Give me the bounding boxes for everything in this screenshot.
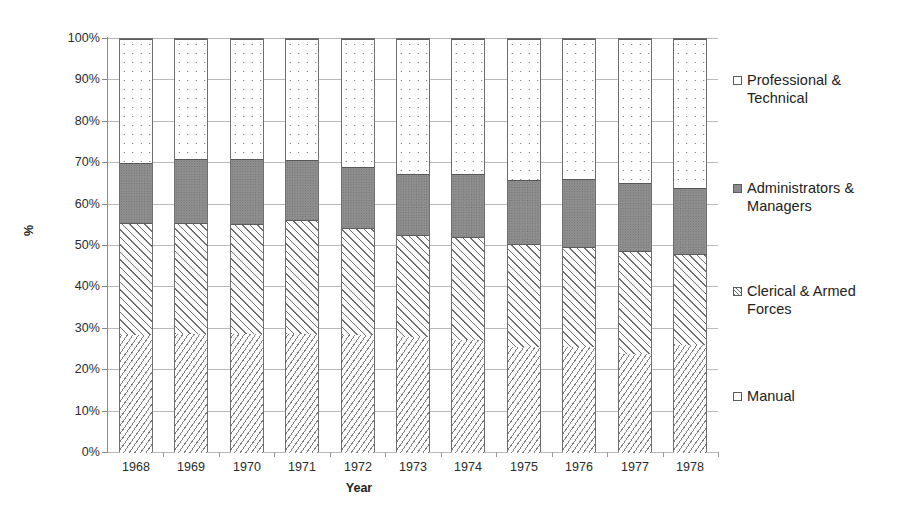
bar-segment-professional[interactable] [674, 39, 706, 188]
bar-segment-manual[interactable] [619, 354, 651, 453]
bar-segment-manual[interactable] [120, 335, 152, 453]
y-tick-mark [102, 38, 108, 39]
y-tick-mark [102, 121, 108, 122]
bar-segment-admin[interactable] [231, 159, 263, 224]
stacked-bar[interactable] [507, 38, 541, 452]
bar-segment-professional[interactable] [619, 39, 651, 183]
bar-segment-clerical[interactable] [452, 237, 484, 340]
bar-segment-manual[interactable] [674, 345, 706, 453]
bar-segment-admin[interactable] [452, 174, 484, 237]
stacked-bar[interactable] [618, 38, 652, 452]
legend-item-administrators-managers: Administrators & Managers [733, 180, 908, 215]
bar-segment-clerical[interactable] [231, 224, 263, 334]
bar-segment-admin[interactable] [674, 188, 706, 254]
y-tick-mark [102, 411, 108, 412]
y-tick-label: 30% [75, 321, 100, 335]
y-tick-mark [102, 79, 108, 80]
x-tick-mark [552, 452, 553, 457]
x-tick-mark [219, 452, 220, 457]
stacked-bar[interactable] [174, 38, 208, 452]
stacked-bar[interactable] [451, 38, 485, 452]
bar-segment-admin[interactable] [175, 159, 207, 223]
bar-segment-manual[interactable] [342, 335, 374, 453]
chart-legend: Professional & Technical Administrators … [733, 0, 908, 514]
bar-segment-manual[interactable] [508, 347, 540, 453]
bar-segment-admin[interactable] [508, 180, 540, 244]
bar-segment-admin[interactable] [120, 163, 152, 223]
bar-segment-professional[interactable] [563, 39, 595, 179]
x-tick-label: 1969 [161, 460, 221, 474]
stacked-bar[interactable] [119, 38, 153, 452]
y-tick-label: 80% [75, 114, 100, 128]
stacked-bar[interactable] [230, 38, 264, 452]
bar-segment-professional[interactable] [175, 39, 207, 159]
bar-segment-professional[interactable] [342, 39, 374, 167]
legend-label: Manual [747, 388, 795, 406]
x-tick-label: 1971 [272, 460, 332, 474]
stacked-bar[interactable] [673, 38, 707, 452]
bar-segment-clerical[interactable] [286, 220, 318, 334]
bar-segment-clerical[interactable] [120, 223, 152, 335]
y-tick-label: 50% [75, 238, 100, 252]
x-tick-label: 1975 [494, 460, 554, 474]
y-tick-mark [102, 452, 108, 453]
y-axis-title: % [22, 225, 36, 236]
y-tick-label: 0% [82, 445, 100, 459]
bar-segment-manual[interactable] [286, 334, 318, 453]
x-tick-label: 1972 [328, 460, 388, 474]
clerical-swatch-icon [733, 287, 742, 296]
x-tick-mark [496, 452, 497, 457]
bar-segment-manual[interactable] [563, 347, 595, 453]
bar-segment-clerical[interactable] [619, 251, 651, 355]
bar-segment-admin[interactable] [397, 174, 429, 234]
x-tick-label: 1977 [605, 460, 665, 474]
bar-segment-professional[interactable] [452, 39, 484, 174]
legend-item-professional-technical: Professional & Technical [733, 72, 908, 107]
stacked-bar[interactable] [285, 38, 319, 452]
bar-segment-professional[interactable] [508, 39, 540, 180]
y-tick-label-wrap: 40% [44, 279, 100, 293]
bar-segment-clerical[interactable] [397, 235, 429, 337]
y-tick-label: 100% [68, 31, 100, 45]
y-tick-label: 70% [75, 155, 100, 169]
bar-segment-admin[interactable] [286, 160, 318, 220]
x-tick-mark [718, 452, 719, 457]
y-tick-label-wrap: 20% [44, 362, 100, 376]
stacked-bar[interactable] [341, 38, 375, 452]
y-tick-mark [102, 286, 108, 287]
x-tick-label: 1974 [438, 460, 498, 474]
bar-segment-admin[interactable] [619, 183, 651, 251]
x-tick-mark [385, 452, 386, 457]
y-tick-label-wrap: 80% [44, 114, 100, 128]
bar-segment-professional[interactable] [397, 39, 429, 174]
bar-segment-manual[interactable] [397, 337, 429, 453]
y-tick-label-wrap: 50% [44, 238, 100, 252]
y-tick-mark [102, 204, 108, 205]
x-tick-label: 1970 [217, 460, 277, 474]
y-tick-label-wrap: 100% [44, 31, 100, 45]
y-tick-label: 10% [75, 404, 100, 418]
stacked-bar[interactable] [562, 38, 596, 452]
bar-segment-clerical[interactable] [508, 244, 540, 347]
y-tick-label-wrap: 10% [44, 404, 100, 418]
x-tick-mark [274, 452, 275, 457]
legend-label: Professional & Technical [747, 72, 841, 107]
bar-segment-clerical[interactable] [342, 228, 374, 335]
x-tick-label: 1976 [549, 460, 609, 474]
bar-segment-manual[interactable] [452, 340, 484, 453]
bar-segment-professional[interactable] [231, 39, 263, 159]
bar-segment-clerical[interactable] [674, 254, 706, 345]
x-tick-label: 1973 [383, 460, 443, 474]
bar-segment-clerical[interactable] [563, 247, 595, 348]
bar-segment-admin[interactable] [342, 167, 374, 229]
admin-swatch-icon [733, 184, 742, 193]
bar-segment-manual[interactable] [175, 334, 207, 453]
y-tick-label-wrap: 0% [44, 445, 100, 459]
bar-segment-admin[interactable] [563, 179, 595, 247]
bar-segment-manual[interactable] [231, 334, 263, 453]
y-tick-label: 40% [75, 279, 100, 293]
bar-segment-professional[interactable] [286, 39, 318, 160]
stacked-bar[interactable] [396, 38, 430, 452]
bar-segment-clerical[interactable] [175, 223, 207, 334]
bar-segment-professional[interactable] [120, 39, 152, 163]
